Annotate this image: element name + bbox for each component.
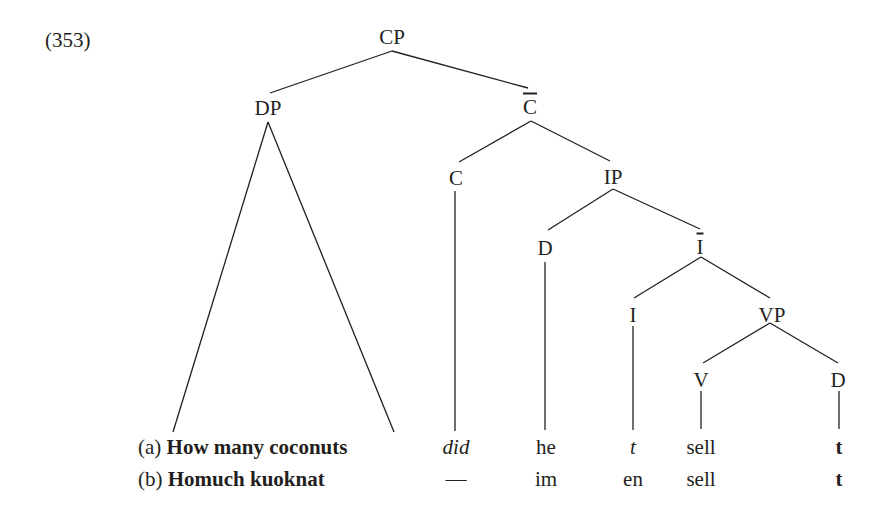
row-b-word-dash: — — [446, 469, 467, 490]
row-b-word-en: en — [623, 469, 643, 490]
edge-ibar-i — [634, 257, 701, 298]
row-a-wh-phrase: How many coconuts — [167, 435, 348, 459]
row-a-phrase: (a) How many coconuts — [138, 437, 347, 458]
row-b-word-im: im — [535, 469, 557, 490]
row-a-label: (a) — [138, 435, 161, 459]
edge-ibar-vp — [701, 257, 770, 298]
example-number: (353) — [45, 30, 91, 51]
node-i-bar: I — [697, 237, 704, 258]
edge-ip-ibar — [613, 189, 700, 229]
triangle-right — [268, 122, 394, 432]
row-a-word-sell: sell — [686, 437, 715, 458]
edge-cp-cbar — [392, 51, 528, 88]
edge-vp-v — [703, 323, 770, 363]
edge-cp-dp — [270, 51, 392, 93]
node-v: V — [693, 370, 708, 391]
node-i: I — [630, 305, 637, 326]
node-c: C — [449, 168, 463, 189]
row-a-word-he: he — [536, 437, 556, 458]
row-b-label: (b) — [138, 467, 163, 491]
triangle-left — [173, 122, 268, 432]
edge-vp-d — [770, 323, 838, 363]
node-c-bar: C — [523, 97, 537, 118]
row-b-phrase: (b) Homuch kuoknat — [138, 469, 325, 490]
node-ip: IP — [604, 167, 623, 188]
row-b-wh-phrase: Homuch kuoknat — [168, 467, 325, 491]
edge-ip-d — [548, 189, 613, 230]
node-d-subject: D — [537, 238, 552, 259]
row-a-word-did: did — [443, 437, 470, 458]
edge-cbar-ip — [531, 121, 610, 161]
edge-cbar-c — [459, 121, 531, 162]
node-cp: CP — [379, 27, 405, 48]
row-b-word-sell: sell — [686, 469, 715, 490]
row-b-word-t-object: t — [836, 469, 843, 490]
row-a-word-t-trace: t — [630, 437, 636, 458]
node-d-object: D — [830, 370, 845, 391]
node-dp: DP — [255, 98, 282, 119]
row-a-word-t-object: t — [836, 437, 843, 458]
node-vp: VP — [759, 305, 786, 326]
